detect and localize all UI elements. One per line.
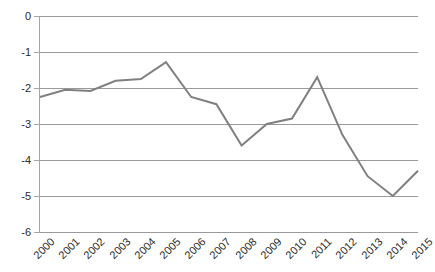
y-axis-tick-mark [34,232,39,233]
y-axis-tick-mark [34,124,39,125]
y-axis-tick-mark [34,196,39,197]
y-axis-tick-mark [34,88,39,89]
y-axis-tick-mark [34,52,39,53]
y-axis-tick-mark [34,16,39,17]
series-line [40,62,418,196]
y-axis-tick-mark [34,160,39,161]
